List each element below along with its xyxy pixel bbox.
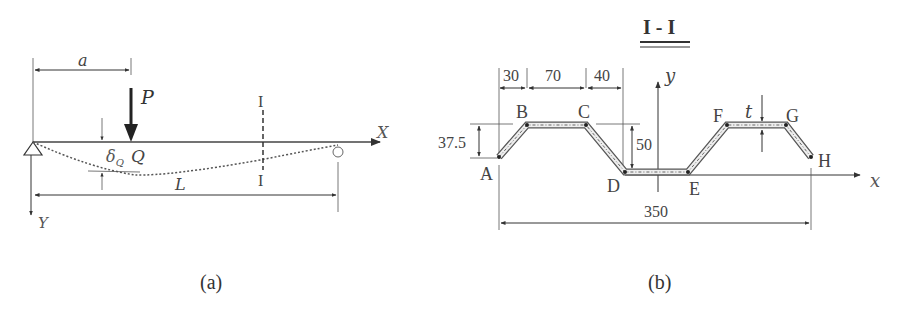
label-point-D: D (607, 176, 620, 196)
figure-canvas: a P X Y δQ Q I I L (a) I - I (0, 0, 905, 319)
label-point-A: A (480, 164, 493, 184)
label-delta: δQ (106, 147, 124, 168)
label-P: P (140, 86, 155, 108)
roller-support-icon (333, 147, 343, 157)
node-C (584, 123, 588, 127)
caption-a: (a) (200, 271, 222, 294)
load-arrowhead-icon (124, 124, 138, 142)
caption-b: (b) (648, 271, 671, 294)
label-Q: Q (131, 146, 145, 166)
label-L: L (174, 175, 186, 194)
label-x: x (870, 170, 880, 191)
node-B (525, 123, 529, 127)
dim-37: 37.5 (438, 134, 466, 151)
label-point-C: C (578, 102, 590, 122)
dim-30: 30 (503, 67, 519, 84)
dim-70: 70 (545, 67, 561, 84)
delta-extension (88, 171, 140, 172)
label-point-E: E (689, 179, 700, 199)
label-a: a (78, 51, 88, 70)
node-A (497, 155, 501, 159)
label-point-F: F (713, 106, 723, 126)
label-section-bottom: I (258, 172, 263, 189)
label-point-B: B (516, 102, 528, 122)
node-F (725, 123, 729, 127)
label-t: t (745, 101, 753, 122)
section-title: I - I (643, 16, 675, 38)
dim-40: 40 (594, 67, 610, 84)
profile-outer (499, 125, 811, 172)
node-E (686, 170, 690, 174)
label-y: y (664, 65, 676, 86)
deflection-curve (33, 142, 338, 175)
label-point-G: G (786, 106, 799, 126)
label-Y: Y (38, 214, 50, 232)
dim-350: 350 (644, 203, 668, 220)
label-point-H: H (818, 151, 831, 171)
cross-section-diagram: I - I 30 70 40 37.5 50 y x (438, 16, 880, 230)
node-D (623, 170, 627, 174)
profile-centerline (499, 125, 811, 172)
label-X: X (375, 123, 389, 142)
dim-50: 50 (636, 136, 652, 153)
profile-nodes (497, 123, 813, 174)
label-section-top: I (258, 93, 263, 110)
pin-support-icon (24, 142, 42, 155)
profile-inner (499, 125, 811, 172)
beam-diagram: a P X Y δQ Q I I L (24, 51, 389, 232)
node-H (809, 155, 813, 159)
